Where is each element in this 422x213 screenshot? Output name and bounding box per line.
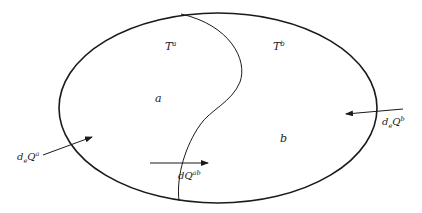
flow-deQa-label: deQa [17, 150, 39, 165]
diagram-canvas: Ta Tb a b deQa deQb dQab [0, 0, 422, 213]
temperature-a-label: Ta [165, 40, 177, 53]
flow-deQb-label: deQb [382, 115, 405, 130]
region-a-label: a [155, 92, 162, 105]
flow-dQab-label: dQab [178, 169, 201, 181]
arrow-deQb [346, 109, 403, 114]
region-b-label: b [280, 132, 287, 145]
temperature-b-label: Tb [273, 40, 285, 53]
